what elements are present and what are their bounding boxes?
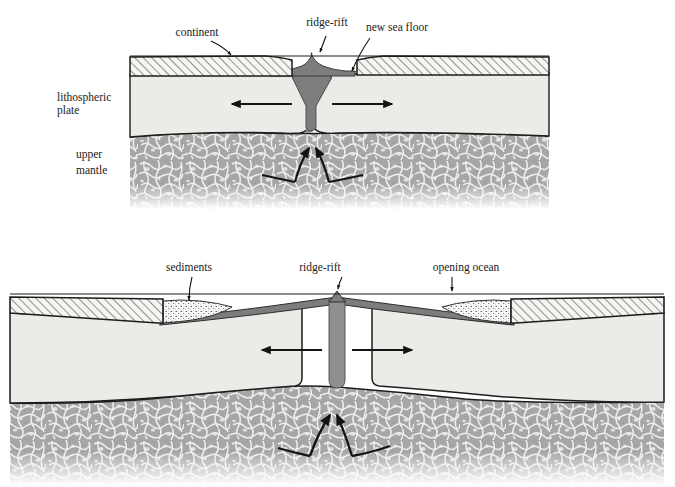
label-opening-ocean-bottom: opening ocean [433,261,500,274]
ridge-crest-bottom [329,291,345,302]
label-new-sea-floor-top: new sea floor [366,21,428,33]
sea-floor-spreading-diagram: continent ridge-rift new sea floor litho… [0,0,675,487]
label-ridge-rift-top: ridge-rift [306,16,348,29]
label-sediments-bottom: sediments [166,261,213,273]
leader-continent-top [211,41,231,55]
upper-mantle-region-top [130,132,549,209]
label-continent-top: continent [176,26,220,38]
figure-root: continent ridge-rift new sea floor litho… [0,0,675,487]
leader-sediments-bottom [189,277,192,300]
label-upper-mantle-line2: mantle [76,164,107,176]
label-lithospheric-plate-line2: plate [57,104,79,117]
leader-ridge-rift-bottom [338,277,342,289]
magma-conduit-bottom [329,299,345,388]
label-upper-mantle-line1: upper [76,148,102,161]
panel-bottom: sediments ridge-rift opening ocean [10,261,664,484]
label-lithospheric-plate-line1: lithospheric [57,91,111,104]
label-ridge-rift-bottom: ridge-rift [299,261,341,274]
continental-crust-left-top [130,56,292,76]
leader-ridge-rift-top [320,36,326,52]
continental-crust-right-top [357,56,549,75]
panel-top: continent ridge-rift new sea floor litho… [57,16,549,209]
